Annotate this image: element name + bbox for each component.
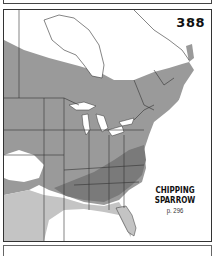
previous-map-frame-edge [3,0,212,4]
plate-number: 388 [176,15,205,30]
species-label: CHIPPING SPARROW p. 296 [142,185,208,214]
page-reference: p. 296 [147,207,203,214]
species-name-line2: SPARROW [149,195,202,205]
next-map-frame-edge [3,245,212,256]
species-name-line1: CHIPPING [149,185,202,195]
range-map: 388 CHIPPING SPARROW p. 296 [3,9,212,242]
